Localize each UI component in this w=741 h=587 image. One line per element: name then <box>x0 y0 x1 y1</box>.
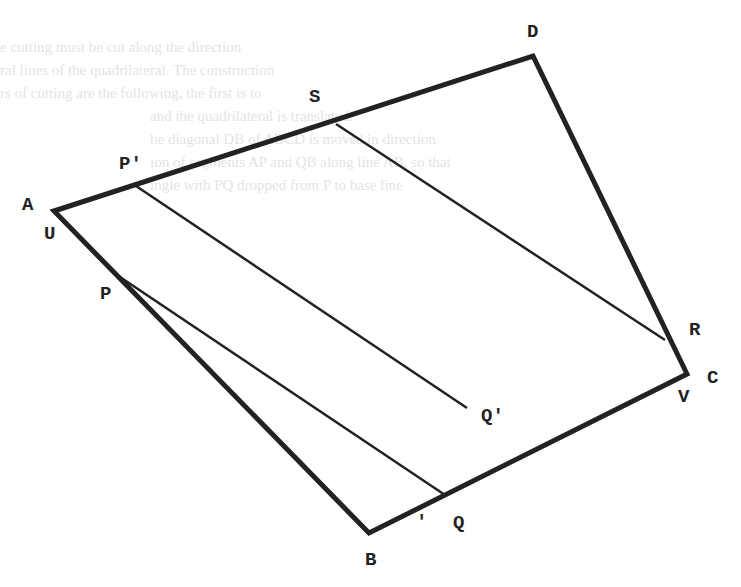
label-p: P <box>100 285 111 304</box>
label-r: R <box>689 321 700 340</box>
label-v: V <box>678 388 689 407</box>
label-s: S <box>309 88 320 107</box>
segment-p-q <box>117 275 445 495</box>
quadrilateral-abcd <box>54 56 687 533</box>
label-b: B <box>365 551 376 570</box>
label-q-prime: Q' <box>481 407 504 426</box>
label-tick: ' <box>416 513 427 532</box>
label-q: Q <box>453 514 464 533</box>
segment-p-prime-q-prime <box>136 186 467 408</box>
label-c: C <box>707 369 718 388</box>
label-p-prime: P' <box>119 155 142 174</box>
label-u: U <box>44 225 55 244</box>
label-a: A <box>22 196 33 215</box>
label-d: D <box>527 23 538 42</box>
